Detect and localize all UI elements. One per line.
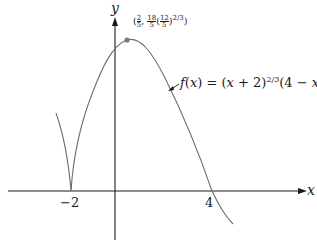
tick-label-neg2: −2 bbox=[60, 195, 79, 210]
y-axis-label: y bbox=[111, 0, 119, 16]
x-axis-arrow-icon bbox=[298, 188, 307, 194]
local-max-point bbox=[124, 37, 129, 42]
function-label: f(x) = (x + 2)2/3(4 − x) bbox=[180, 75, 317, 90]
graph-canvas bbox=[0, 0, 317, 248]
function-graph: y x −2 4 (25, 185(125)2/3) f(x) = (x + 2… bbox=[0, 0, 317, 248]
y-axis-arrow-icon bbox=[112, 17, 118, 26]
x-axis-label: x bbox=[307, 182, 315, 198]
tick-label-4: 4 bbox=[205, 195, 213, 210]
peak-point-label: (25, 185(125)2/3) bbox=[133, 14, 188, 28]
curve-left-branch bbox=[56, 113, 71, 191]
